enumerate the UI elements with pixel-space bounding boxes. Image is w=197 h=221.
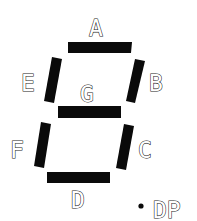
segment-a (68, 42, 132, 53)
segment-g (58, 106, 121, 118)
segment-e (44, 57, 62, 103)
label-f: F (10, 137, 24, 163)
label-a: A (89, 15, 103, 41)
seven-segment-diagram: A B C D E F G DP (0, 0, 197, 221)
label-d: D (71, 187, 85, 213)
segment-c (116, 124, 134, 170)
segment-d (47, 172, 110, 183)
segment-f (34, 122, 51, 168)
label-g: G (80, 81, 94, 107)
decimal-point-dot (138, 203, 143, 208)
label-c: C (138, 137, 152, 163)
segment-b (126, 59, 145, 103)
label-e: E (21, 70, 35, 96)
label-b: B (149, 70, 163, 96)
label-dp: DP (153, 197, 181, 221)
